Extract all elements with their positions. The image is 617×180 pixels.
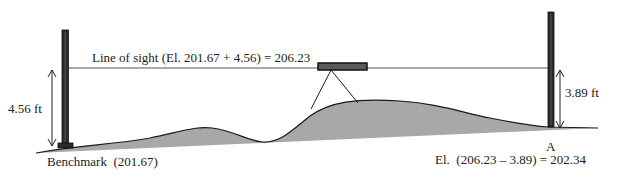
- point-a-elevation-label: El. (206.23 – 3.89) = 202.34: [435, 153, 586, 166]
- ground-terrain: [36, 100, 598, 153]
- leveling-diagram: Line of sight (El. 201.67 + 4.56) = 206.…: [0, 0, 617, 180]
- benchmark-marker: [58, 143, 73, 148]
- foresight-dimension-arrow: [556, 70, 564, 128]
- line-of-sight-label: Line of sight (El. 201.67 + 4.56) = 206.…: [92, 51, 310, 64]
- backsight-height-label: 4.56 ft: [8, 102, 42, 115]
- backsight-dimension-arrow: [48, 70, 56, 146]
- foresight-height-label: 3.89 ft: [565, 86, 599, 99]
- level-instrument: [318, 63, 367, 70]
- benchmark-label: Benchmark (201.67): [47, 155, 158, 168]
